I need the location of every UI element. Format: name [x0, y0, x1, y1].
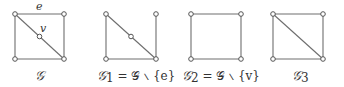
- vertex: [154, 12, 159, 17]
- vertex: [62, 12, 67, 17]
- vertex: [239, 12, 244, 17]
- caption-g2-sub: 2: [191, 71, 199, 85]
- edge-diagonal: [273, 14, 323, 59]
- vertex-label-v: v: [40, 22, 47, 35]
- vertex: [62, 57, 67, 62]
- vertex: [321, 12, 326, 17]
- caption-g1-sub: 1: [106, 71, 114, 85]
- graph-figure: e v 𝒢 𝒢1 = 𝒢 ∖ {e} 𝒢2 = 𝒢 ∖ {v}: [0, 0, 344, 87]
- caption-g2-rest: = 𝒢 ∖ {v}: [199, 69, 260, 83]
- vertex: [104, 57, 109, 62]
- vertex: [104, 12, 109, 17]
- vertex: [271, 57, 276, 62]
- caption-g3-sub: 3: [301, 71, 309, 85]
- caption-g3: 𝒢3: [292, 68, 309, 85]
- edge-label-e: e: [36, 0, 43, 13]
- graph-g: e v 𝒢: [13, 0, 67, 83]
- vertex: [239, 57, 244, 62]
- vertex: [13, 12, 18, 17]
- vertex: [271, 12, 276, 17]
- vertex: [154, 57, 159, 62]
- caption-g1: 𝒢1 = 𝒢 ∖ {e}: [97, 68, 175, 85]
- caption-g1-rest: = 𝒢 ∖ {e}: [114, 69, 176, 83]
- graph-g3: 𝒢3: [271, 12, 326, 85]
- caption-g2: 𝒢2 = 𝒢 ∖ {v}: [182, 68, 260, 85]
- vertex-v: [129, 34, 134, 39]
- graph-g2: 𝒢2 = 𝒢 ∖ {v}: [182, 12, 260, 85]
- graph-g1: 𝒢1 = 𝒢 ∖ {e}: [97, 12, 175, 85]
- vertex: [189, 57, 194, 62]
- caption-g: 𝒢: [35, 68, 47, 83]
- vertex: [189, 12, 194, 17]
- vertex: [321, 57, 326, 62]
- vertex: [13, 57, 18, 62]
